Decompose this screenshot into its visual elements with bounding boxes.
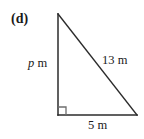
vertical-leg-unit: m bbox=[37, 56, 47, 70]
hypotenuse-label: 13 m bbox=[102, 54, 127, 67]
base-label: 5 m bbox=[88, 119, 107, 132]
right-angle-marker-icon bbox=[58, 107, 66, 115]
vertical-leg-variable: p bbox=[28, 56, 34, 70]
figure-canvas: (d) p m 13 m 5 m bbox=[0, 0, 144, 139]
vertical-leg-label: p m bbox=[28, 57, 47, 70]
part-label: (d) bbox=[11, 12, 28, 26]
